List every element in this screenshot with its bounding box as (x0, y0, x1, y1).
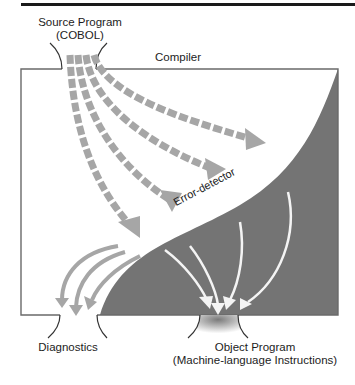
diagnostics-label: Diagnostics (28, 341, 108, 354)
compiler-label: Compiler (148, 51, 208, 64)
source-dashed-arrows (70, 55, 255, 225)
diag-notch-right (97, 315, 107, 338)
source-line2: (COBOL) (30, 29, 130, 42)
source-program-label: Source Program (COBOL) (30, 16, 130, 42)
object-program-label: Object Program (Machine-language Instruc… (160, 341, 350, 367)
object-line2: (Machine-language Instructions) (160, 354, 350, 367)
object-region (100, 69, 338, 315)
object-line1: Object Program (160, 341, 350, 354)
diag-notch-left (48, 315, 60, 338)
source-line1: Source Program (30, 16, 130, 29)
source-notch-left (50, 43, 62, 69)
